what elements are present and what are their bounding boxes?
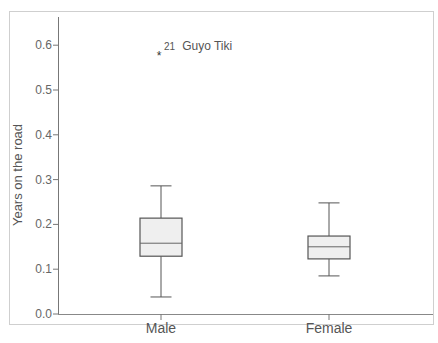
box-series: *21Guyo Tiki	[140, 39, 350, 320]
outlier-case-number: 21	[164, 41, 176, 52]
y-axis-label: Years on the road	[10, 124, 25, 226]
y-tick-label: 0.0	[35, 307, 52, 321]
y-tick-label: 0.2	[35, 217, 52, 231]
box-female	[308, 203, 350, 320]
y-tick-label: 0.6	[35, 38, 52, 52]
y-axis-ticks: 0.00.10.20.30.40.50.6	[35, 38, 58, 321]
box-plot-chart: 0.00.10.20.30.40.50.6 Years on the road …	[0, 0, 438, 343]
box-male: *21Guyo Tiki	[140, 39, 232, 320]
outlier-label: 21Guyo Tiki	[164, 39, 232, 53]
y-tick-label: 0.1	[35, 262, 52, 276]
iqr-box	[308, 236, 350, 259]
outlier-name: Guyo Tiki	[182, 39, 232, 53]
outlier-star-icon: *	[157, 49, 162, 63]
chart-frame	[10, 12, 434, 325]
y-tick-label: 0.5	[35, 83, 52, 97]
category-label-female: Female	[306, 320, 353, 336]
iqr-box	[140, 218, 182, 256]
category-label-male: Male	[146, 320, 177, 336]
y-tick-label: 0.3	[35, 173, 52, 187]
y-tick-label: 0.4	[35, 128, 52, 142]
